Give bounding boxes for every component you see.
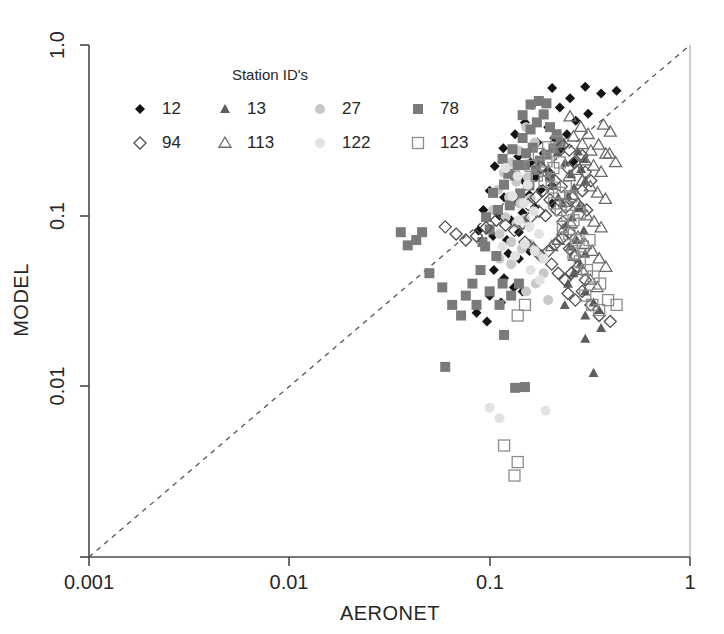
data-point xyxy=(541,406,551,416)
legend-items: 1213277894113122123 xyxy=(134,99,468,152)
data-point xyxy=(482,316,492,326)
data-point xyxy=(505,200,515,210)
y-tick-label-0: 1.0 xyxy=(46,31,68,59)
data-point xyxy=(595,222,607,232)
data-point xyxy=(612,86,622,96)
data-point xyxy=(541,98,551,108)
data-point xyxy=(506,291,516,301)
legend-marker-27 xyxy=(315,104,325,114)
data-point xyxy=(589,368,599,377)
legend: Station ID's 1213277894113122123 xyxy=(134,66,468,152)
data-point xyxy=(543,295,553,305)
legend-label-13: 13 xyxy=(247,99,266,118)
data-point xyxy=(510,251,520,261)
data-point xyxy=(499,180,509,190)
data-point xyxy=(417,227,427,237)
data-point xyxy=(472,300,482,310)
data-point xyxy=(424,268,434,278)
legend-label-123: 123 xyxy=(440,133,468,152)
data-point xyxy=(495,300,505,310)
scatter-plot-figure: 0.001 0.01 0.1 1 1.0 0.1 0.01 AERONET MO… xyxy=(0,0,724,634)
data-point xyxy=(535,275,545,285)
data-point xyxy=(501,163,511,173)
data-point xyxy=(498,279,508,289)
legend-marker-113 xyxy=(219,137,231,147)
legend-label-27: 27 xyxy=(342,99,361,118)
data-point xyxy=(518,110,528,120)
legend-label-12: 12 xyxy=(162,99,181,118)
data-point xyxy=(461,291,471,301)
data-point xyxy=(580,311,590,320)
data-point xyxy=(611,299,622,310)
x-axis-title: AERONET xyxy=(340,602,440,624)
data-point xyxy=(498,143,508,153)
data-point xyxy=(591,187,603,197)
data-point xyxy=(513,171,523,181)
data-point xyxy=(507,144,517,154)
legend-marker-78 xyxy=(413,104,423,114)
data-point xyxy=(477,237,487,247)
data-point xyxy=(526,265,536,275)
data-point xyxy=(488,188,498,198)
data-point xyxy=(599,193,611,203)
x-tick-marks xyxy=(89,557,690,566)
data-point xyxy=(499,330,509,340)
data-point xyxy=(534,229,544,239)
legend-marker-12 xyxy=(135,104,145,114)
data-point xyxy=(450,228,462,240)
y-tick-marks xyxy=(80,45,89,557)
data-point xyxy=(437,282,447,292)
x-tick-label-1: 0.01 xyxy=(270,571,309,593)
data-point xyxy=(485,403,495,413)
data-point xyxy=(509,470,520,481)
data-point xyxy=(596,88,606,98)
data-point xyxy=(495,229,505,239)
data-point xyxy=(529,206,539,216)
x-tick-label-2: 0.1 xyxy=(476,571,504,593)
data-point xyxy=(565,93,575,103)
data-point xyxy=(597,119,609,129)
y-tick-label-1: 0.1 xyxy=(46,202,68,230)
data-point xyxy=(582,128,594,138)
data-point xyxy=(475,265,485,275)
data-point xyxy=(591,281,603,291)
data-point xyxy=(593,253,605,263)
data-point xyxy=(555,103,565,113)
data-points-layer xyxy=(396,82,622,481)
data-point xyxy=(604,126,616,136)
data-point xyxy=(467,279,477,289)
data-point xyxy=(520,382,530,392)
data-point xyxy=(514,215,524,225)
data-point xyxy=(513,160,523,170)
data-point xyxy=(512,310,523,321)
data-point xyxy=(514,279,524,289)
data-point xyxy=(588,216,600,226)
data-point xyxy=(520,239,530,249)
data-point xyxy=(519,299,530,310)
data-point xyxy=(498,241,508,251)
legend-label-113: 113 xyxy=(247,133,274,152)
data-point xyxy=(524,222,534,232)
data-point xyxy=(489,265,499,275)
data-point xyxy=(447,300,457,310)
data-point xyxy=(456,311,466,321)
legend-marker-94 xyxy=(134,137,146,149)
data-point xyxy=(604,315,616,327)
data-point xyxy=(499,440,510,451)
legend-marker-13 xyxy=(220,104,230,113)
data-point xyxy=(495,413,505,423)
data-point xyxy=(491,251,501,261)
data-point xyxy=(485,286,495,296)
data-point xyxy=(519,198,529,208)
data-point xyxy=(593,139,605,149)
data-point xyxy=(539,254,549,264)
data-point xyxy=(583,109,593,119)
legend-marker-122 xyxy=(315,138,325,148)
data-point xyxy=(580,82,590,92)
y-axis-title: MODEL xyxy=(10,263,32,337)
data-point xyxy=(580,334,590,343)
legend-label-122: 122 xyxy=(342,133,370,152)
legend-label-78: 78 xyxy=(440,99,459,118)
data-point xyxy=(560,300,570,309)
data-point xyxy=(547,83,557,93)
